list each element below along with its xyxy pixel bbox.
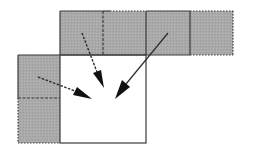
cell-left-1 [18,55,60,98]
cell-left-2 [18,98,60,143]
central-square [60,55,146,143]
cell-top-1 [60,11,103,55]
grid-arrow-diagram [0,0,256,158]
cell-top-4 [190,11,233,55]
cell-top-2 [103,11,146,55]
diagram-canvas [0,0,256,158]
